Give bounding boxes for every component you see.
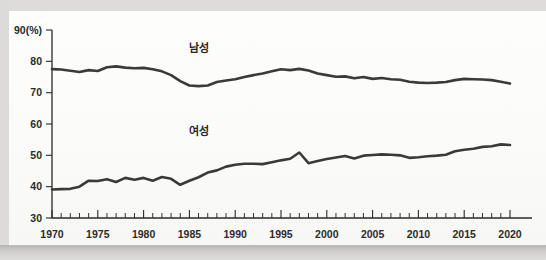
series-annotations: 남성여성 [189, 41, 209, 138]
line-chart: 30405060708090(%) 1970197519801985199019… [0, 0, 546, 260]
y-axis-label-80: 80 [30, 55, 42, 67]
x-axis-label-2020: 2020 [498, 228, 522, 240]
x-axis-label-2005: 2005 [361, 228, 385, 240]
x-axis-label-2010: 2010 [407, 228, 431, 240]
y-axis-labels: 30405060708090(%) [14, 24, 42, 224]
data-lines [52, 66, 510, 189]
x-axis-label-1995: 1995 [269, 228, 293, 240]
series-annotation-1: 여성 [189, 124, 209, 138]
figure-container: 30405060708090(%) 1970197519801985199019… [0, 0, 546, 260]
data-line-male [52, 66, 510, 86]
y-axis-label-50: 50 [30, 149, 42, 161]
x-axis-labels: 1970197519801985199019952000200520102015… [40, 228, 522, 240]
y-axis-label-40: 40 [30, 180, 42, 192]
x-axis-label-2015: 2015 [453, 228, 477, 240]
x-axis-label-1970: 1970 [40, 228, 64, 240]
y-axis-label-90: 90(%) [14, 24, 42, 36]
x-axis-label-1985: 1985 [178, 228, 202, 240]
series-annotation-0: 남성 [189, 41, 209, 55]
y-axis-label-30: 30 [30, 212, 42, 224]
x-axis-label-1980: 1980 [132, 228, 156, 240]
axis-ticks [46, 30, 510, 218]
data-line-female [52, 144, 510, 189]
axis-lines [52, 30, 532, 218]
y-axis-label-70: 70 [30, 86, 42, 98]
x-axis-label-1990: 1990 [224, 228, 248, 240]
y-axis-label-60: 60 [30, 118, 42, 130]
chart-axes [52, 30, 532, 218]
x-axis-label-2000: 2000 [315, 228, 339, 240]
x-axis-label-1975: 1975 [86, 228, 110, 240]
